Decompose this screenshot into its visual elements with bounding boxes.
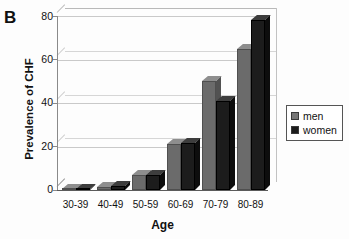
bar-front <box>237 49 251 190</box>
bar-front <box>146 175 160 190</box>
bar-women[interactable] <box>216 101 230 190</box>
plot-floor <box>57 190 276 198</box>
x-tick-label: 70-79 <box>198 199 233 210</box>
plot-back-top-edge <box>65 8 276 9</box>
bar-group <box>61 16 92 190</box>
x-axis-line <box>57 190 268 191</box>
bar-women[interactable] <box>146 175 160 190</box>
y-tick-label: 0 <box>0 183 53 195</box>
bar-men[interactable] <box>202 81 216 190</box>
y-axis-ticks: 80 60 40 20 0 <box>0 0 53 239</box>
bar-front <box>251 20 265 190</box>
bar-men[interactable] <box>132 175 146 190</box>
axis-depth-line <box>57 4 65 12</box>
chart-legend: men women <box>286 105 343 141</box>
x-tick-label: 50-59 <box>128 199 163 210</box>
bar-group <box>236 16 267 190</box>
legend-swatch-men-icon <box>291 112 299 120</box>
bar-women[interactable] <box>251 20 265 190</box>
legend-swatch-women-icon <box>291 126 299 134</box>
y-tick-label: 40 <box>0 96 53 108</box>
bar-front <box>216 101 230 190</box>
legend-item-women[interactable]: women <box>291 123 337 137</box>
bar-women[interactable] <box>181 143 195 190</box>
y-tick-label: 60 <box>0 53 53 65</box>
legend-label-men: men <box>303 111 323 122</box>
bar-front <box>167 144 181 190</box>
plot-area <box>57 16 268 190</box>
x-tick-label: 60-69 <box>163 199 198 210</box>
bar-group <box>166 16 197 190</box>
bar-group <box>96 16 127 190</box>
bar-group <box>131 16 162 190</box>
y-tick-label: 80 <box>0 10 53 22</box>
y-axis-line <box>57 16 58 190</box>
legend-label-women: women <box>303 125 337 136</box>
bar-side <box>195 138 200 190</box>
bar-front <box>202 81 216 190</box>
x-tick-label: 30-39 <box>58 199 93 210</box>
bar-front <box>132 175 146 190</box>
y-tick-label: 20 <box>0 140 53 152</box>
chart-figure: B Prevalence of CHF 80 60 40 20 0 <box>0 0 349 239</box>
bar-side <box>265 15 270 190</box>
x-tick-label: 80-89 <box>233 199 268 210</box>
bar-front <box>181 143 195 190</box>
bar-men[interactable] <box>237 49 251 190</box>
plot-back-right-edge <box>276 8 277 182</box>
x-axis-title: Age <box>57 218 268 232</box>
bar-group <box>201 16 232 190</box>
legend-item-men[interactable]: men <box>291 109 337 123</box>
bar-side <box>230 96 235 190</box>
bar-men[interactable] <box>167 144 181 190</box>
x-tick-label: 40-49 <box>93 199 128 210</box>
